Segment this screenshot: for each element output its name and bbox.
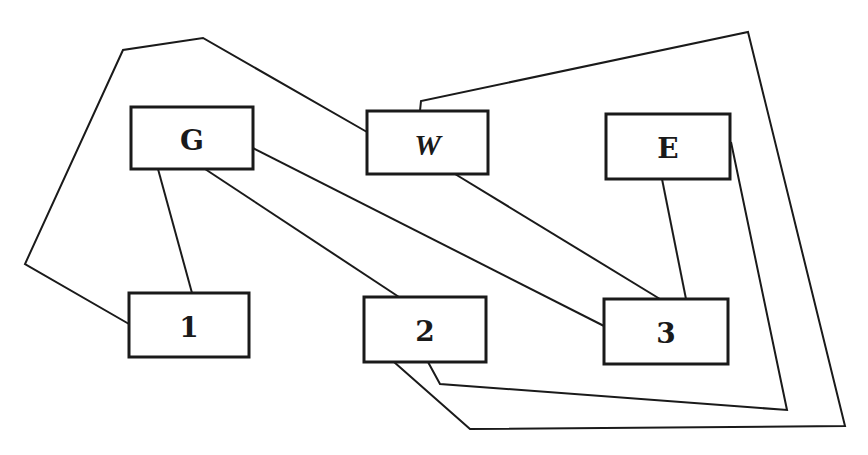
node-G: G [131, 107, 253, 169]
node-W: W [367, 111, 488, 174]
node-3: 3 [604, 299, 728, 364]
edge-E-2 [428, 142, 787, 410]
node-label: W [414, 128, 443, 161]
node-label: 1 [179, 311, 198, 344]
node-layer: GWE123 [129, 107, 730, 364]
edge-1-W [25, 38, 367, 324]
node-label: E [657, 132, 678, 165]
node-E: E [606, 114, 730, 179]
edge-E-3 [662, 179, 686, 299]
edge-W-3 [455, 174, 660, 299]
node-2: 2 [364, 297, 486, 362]
edge-W-2 [394, 32, 845, 429]
node-label: G [180, 124, 204, 157]
edge-G-1 [158, 169, 192, 293]
graph-diagram: GWE123 [0, 0, 868, 455]
node-1: 1 [129, 293, 249, 357]
node-label: 3 [656, 317, 675, 350]
node-label: 2 [415, 315, 434, 348]
edge-layer [25, 32, 845, 429]
edge-G-2 [205, 169, 399, 297]
